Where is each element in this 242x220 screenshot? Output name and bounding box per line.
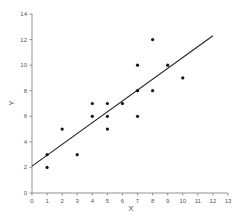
x-tick-label: 10 xyxy=(179,198,186,204)
data-point xyxy=(181,76,184,79)
data-point xyxy=(106,102,109,105)
data-point xyxy=(76,153,79,156)
y-tick-label: 4 xyxy=(24,139,28,145)
trendline xyxy=(32,36,213,166)
regression-line xyxy=(32,36,213,166)
chart-canvas: 01234567891011121302468101214 X Y xyxy=(0,0,242,220)
x-tick-label: 1 xyxy=(45,198,49,204)
x-tick-label: 13 xyxy=(225,198,232,204)
y-tick-label: 12 xyxy=(20,37,27,43)
y-tick-label: 2 xyxy=(24,164,28,170)
data-point xyxy=(136,64,139,67)
data-point xyxy=(121,102,124,105)
x-tick-label: 0 xyxy=(30,198,34,204)
x-tick-label: 9 xyxy=(166,198,170,204)
data-point xyxy=(106,127,109,130)
data-point xyxy=(61,127,64,130)
data-point xyxy=(45,153,48,156)
data-point xyxy=(166,64,169,67)
x-tick-label: 2 xyxy=(60,198,64,204)
x-tick-label: 7 xyxy=(136,198,140,204)
x-tick-label: 3 xyxy=(76,198,80,204)
data-point xyxy=(136,115,139,118)
x-tick-label: 11 xyxy=(195,198,202,204)
x-tick-label: 8 xyxy=(151,198,155,204)
data-points xyxy=(45,38,184,169)
data-point xyxy=(106,115,109,118)
x-tick-label: 6 xyxy=(121,198,125,204)
y-tick-label: 8 xyxy=(24,88,28,94)
y-tick-label: 6 xyxy=(24,113,28,119)
x-tick-label: 4 xyxy=(91,198,95,204)
x-tick-label: 5 xyxy=(106,198,110,204)
data-point xyxy=(45,166,48,169)
data-point xyxy=(91,102,94,105)
data-point xyxy=(151,89,154,92)
x-tick-label: 12 xyxy=(210,198,217,204)
data-point xyxy=(136,89,139,92)
y-axis-label: Y xyxy=(7,100,16,106)
x-axis-label: X xyxy=(128,204,134,213)
data-point xyxy=(91,115,94,118)
scatter-chart: 01234567891011121302468101214 X Y xyxy=(0,0,242,220)
y-tick-label: 10 xyxy=(20,62,27,68)
y-tick-label: 14 xyxy=(20,11,27,17)
data-point xyxy=(151,38,154,41)
y-tick-label: 0 xyxy=(24,190,28,196)
axes: 01234567891011121302468101214 xyxy=(20,11,232,204)
